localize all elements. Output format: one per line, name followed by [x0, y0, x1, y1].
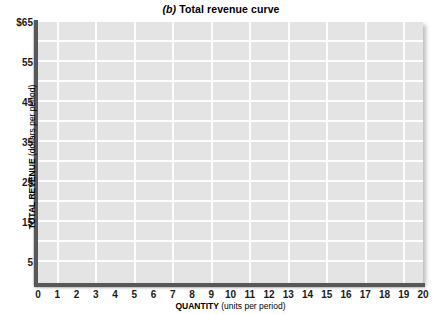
- x-tick-label: 6: [151, 289, 157, 300]
- chart-title-text: Total revenue curve: [176, 3, 279, 15]
- x-tick-label: 9: [208, 289, 214, 300]
- chart-title: (b) Total revenue curve: [0, 3, 442, 15]
- x-tick-label: 14: [302, 289, 313, 300]
- y-tick-label: $65: [1, 17, 33, 28]
- x-tick-label: 18: [379, 289, 390, 300]
- x-tick-label: 11: [244, 289, 255, 300]
- gridline-vertical: [326, 22, 328, 283]
- gridline-vertical: [249, 22, 251, 283]
- x-tick-label: 5: [131, 289, 137, 300]
- x-axis-title-strong: QUANTITY: [175, 301, 218, 311]
- gridline-vertical: [172, 22, 174, 283]
- x-axis-title-normal: (units per period): [219, 301, 286, 311]
- x-tick-label: 20: [417, 289, 428, 300]
- x-tick-label: 17: [360, 289, 371, 300]
- x-tick-label: 7: [170, 289, 176, 300]
- x-tick-label: 10: [225, 289, 236, 300]
- x-tick-label: 8: [189, 289, 195, 300]
- x-tick-label: 0: [35, 289, 41, 300]
- y-axis-title-strong: TOTAL REVENUE: [27, 158, 37, 229]
- gridline-vertical: [211, 22, 213, 283]
- x-tick-label: 12: [263, 289, 274, 300]
- x-tick-label: 16: [340, 289, 351, 300]
- y-axis-title: TOTAL REVENUE (dollars per period): [27, 62, 37, 252]
- plot-area: [38, 22, 423, 283]
- x-tick-label: 19: [398, 289, 409, 300]
- x-axis-line: [34, 283, 425, 287]
- gridline-vertical: [403, 22, 405, 283]
- gridline-vertical: [365, 22, 367, 283]
- gridline-vertical: [288, 22, 290, 283]
- gridline-vertical: [57, 22, 59, 283]
- x-tick-label: 13: [283, 289, 294, 300]
- x-axis-title: QUANTITY (units per period): [38, 301, 423, 311]
- gridline-vertical: [95, 22, 97, 283]
- x-tick-label: 3: [93, 289, 99, 300]
- panel-letter: (b): [162, 3, 176, 15]
- y-tick-label: 5: [1, 257, 33, 268]
- x-tick-label: 2: [74, 289, 80, 300]
- x-tick-label: 4: [112, 289, 118, 300]
- x-tick-label: 15: [321, 289, 332, 300]
- gridline-vertical: [134, 22, 136, 283]
- x-tick-label: 1: [54, 289, 60, 300]
- y-axis-title-normal: (dollars per period): [27, 85, 37, 159]
